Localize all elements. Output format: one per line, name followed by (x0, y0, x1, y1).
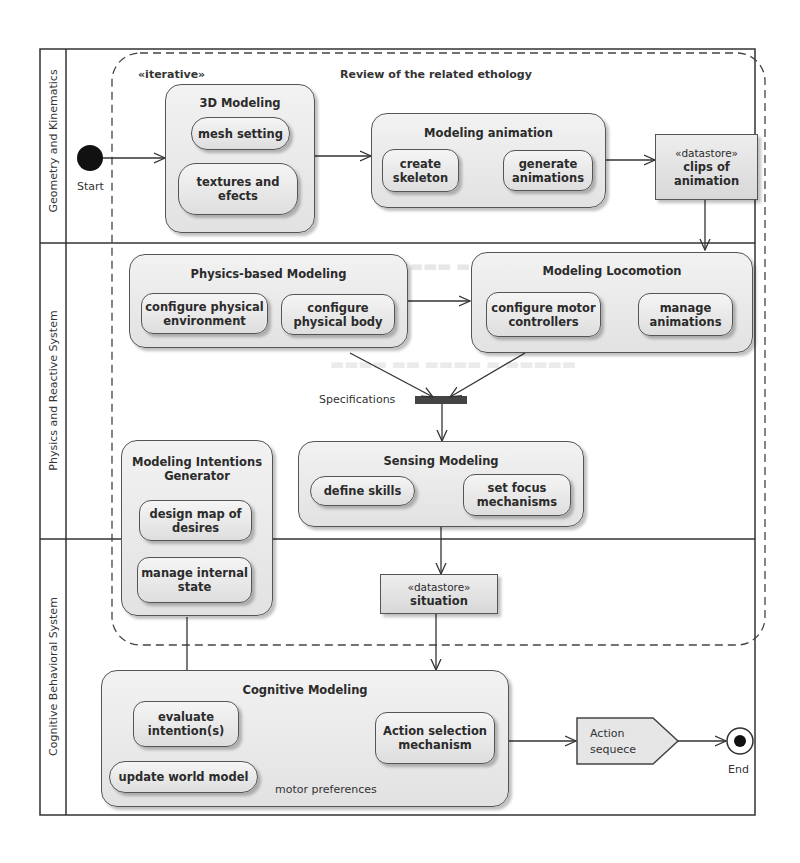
action-selection-mechanism[interactable]: Action selection mechanism (375, 712, 495, 764)
action-evaluate-intentions[interactable]: evaluate intention(s) (133, 701, 239, 747)
datastore-clips-of-animation[interactable]: «datastore» clips of animation (655, 134, 758, 200)
lane-title-physics: Physics and Reactive System (47, 308, 60, 474)
start-node (77, 145, 103, 171)
group-sensing-title: Sensing Modeling (298, 454, 584, 468)
action-textures[interactable]: textures and efects (178, 163, 298, 215)
action-manage-animations[interactable]: manage animations (638, 293, 733, 336)
action-set-focus-mechanisms[interactable]: set focus mechanisms (463, 474, 571, 516)
group-locomotion-title: Modeling Locomotion (471, 264, 753, 278)
group-modeling-animation-title: Modeling animation (371, 126, 606, 140)
specifications-join-bar (415, 396, 467, 404)
action-generate-animations[interactable]: generate animations (503, 150, 593, 191)
end-label: End (728, 763, 749, 776)
lane-title-geometry: Geometry and Kinematics (47, 77, 60, 213)
group-3d-modeling-title: 3D Modeling (165, 96, 315, 110)
group-intentions-title: Modeling Intentions Generator (126, 455, 268, 483)
lane-title-cognitive: Cognitive Behavioral System (47, 592, 60, 762)
datastore-situation[interactable]: «datastore» situation (380, 574, 498, 614)
action-configure-motor-controllers[interactable]: configure motor controllers (486, 292, 601, 337)
review-ethology-label: Review of the related ethology (340, 68, 532, 81)
action-design-map-of-desires[interactable]: design map of desires (139, 500, 252, 541)
action-create-skeleton[interactable]: create skeleton (382, 149, 459, 192)
iterative-stereotype: «iterative» (138, 68, 205, 81)
action-define-skills[interactable]: define skills (310, 476, 415, 506)
action-configure-physical-environment[interactable]: configure physical environment (141, 293, 268, 334)
motor-preferences-label: motor preferences (275, 783, 377, 796)
action-sequence-label: Action sequece (590, 726, 660, 758)
group-physics-title: Physics-based Modeling (129, 267, 408, 281)
end-node-inner (734, 735, 746, 747)
action-update-world-model[interactable]: update world model (109, 761, 258, 793)
specifications-label: Specifications (319, 393, 395, 406)
start-label: Start (77, 180, 104, 193)
group-cognitive-title: Cognitive Modeling (235, 683, 375, 697)
action-configure-physical-body[interactable]: configure physical body (281, 294, 395, 335)
action-manage-internal-state[interactable]: manage internal state (137, 557, 252, 603)
action-mesh-setting[interactable]: mesh setting (191, 117, 290, 150)
